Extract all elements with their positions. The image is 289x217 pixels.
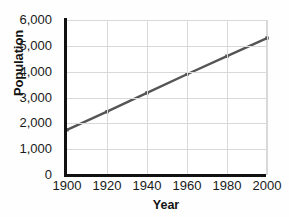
y-tick-label: 3,000 — [0, 91, 60, 104]
gridline-vertical — [147, 20, 148, 175]
gridline-horizontal — [67, 149, 267, 150]
plot-area — [67, 20, 267, 175]
gridline-horizontal — [67, 72, 267, 73]
population-trend-line — [67, 38, 267, 130]
gridline-vertical — [107, 20, 108, 175]
x-axis-title: Year — [65, 198, 267, 212]
y-axis-spine — [64, 18, 67, 177]
line-chart-figure: Population 01,0002,0003,0004,0005,0006,0… — [0, 0, 289, 217]
y-tick-label: 4,000 — [0, 65, 60, 78]
x-axis-spine — [64, 174, 266, 177]
gridline-vertical — [187, 20, 188, 175]
y-tick-label: 2,000 — [0, 116, 60, 129]
gridline-horizontal — [67, 46, 267, 47]
x-tick-label: 2000 — [244, 179, 289, 192]
x-axis-tick-labels: 190019201940196019802000 — [67, 179, 267, 197]
y-tick-label: 6,000 — [0, 13, 60, 26]
gridline-vertical — [267, 20, 268, 175]
gridline-vertical — [227, 20, 228, 175]
y-tick-label: 1,000 — [0, 142, 60, 155]
y-tick-label: 5,000 — [0, 39, 60, 52]
gridline-horizontal — [67, 123, 267, 124]
gridline-horizontal — [67, 98, 267, 99]
gridline-horizontal — [67, 20, 267, 21]
